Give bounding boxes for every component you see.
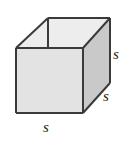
- cube-front-face: [16, 48, 83, 113]
- cube-illustration: [0, 0, 132, 142]
- edge-label-width: s: [43, 120, 49, 135]
- cube-diagram: s s s: [0, 0, 132, 142]
- edge-label-height: s: [113, 47, 119, 62]
- edge-label-depth: s: [103, 89, 109, 104]
